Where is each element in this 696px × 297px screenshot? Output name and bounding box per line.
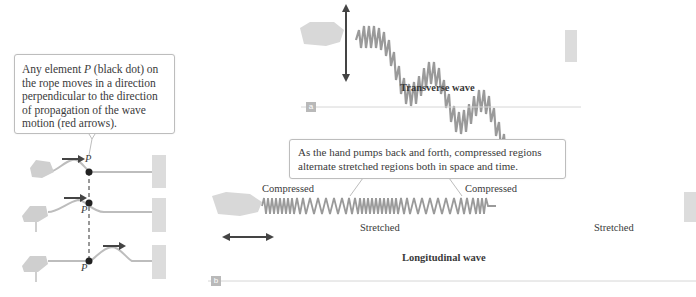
- panel-b-tag: b: [211, 276, 221, 286]
- compression-callout: As the hand pumps back and forth, compre…: [289, 139, 566, 179]
- longitudinal-wave-caption: Longitudinal wave: [402, 252, 486, 263]
- wall-icon: [152, 155, 166, 279]
- transverse-wave-caption: Transverse wave: [400, 82, 475, 93]
- panel-a-tag: a: [306, 102, 316, 112]
- left-right-arrow-icon: [222, 233, 274, 241]
- hand-icon: [30, 160, 54, 178]
- hand-icon: [300, 22, 344, 46]
- point-p-label: P: [81, 262, 87, 273]
- stretched-label: Stretched: [360, 222, 400, 233]
- spring-longitudinal: [262, 198, 496, 214]
- wall-icon: [565, 30, 577, 62]
- compressed-label: Compressed: [465, 183, 517, 194]
- wall-icon: [684, 192, 696, 222]
- compressed-label: Compressed: [262, 183, 314, 194]
- point-p-label: P: [81, 204, 87, 215]
- stretched-label: Stretched: [594, 222, 634, 233]
- point-p-label: P: [85, 153, 91, 164]
- hand-icon: [212, 192, 262, 216]
- up-down-arrow-icon: [342, 4, 350, 82]
- point-p-dot: [86, 169, 93, 176]
